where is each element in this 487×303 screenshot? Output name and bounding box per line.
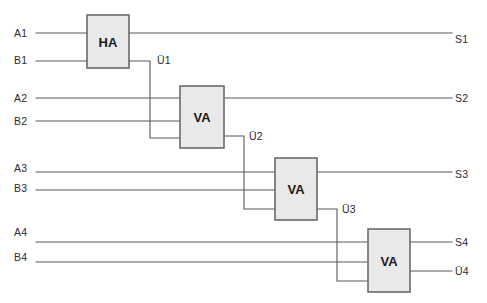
diagram-svg: HAVAVAVA xyxy=(0,0,487,303)
input-label-B2: B2 xyxy=(14,116,27,127)
input-label-B3: B3 xyxy=(14,183,27,194)
carry-label-U1: Ü1 xyxy=(157,55,171,66)
carry-label-U2: Ü2 xyxy=(249,131,263,142)
block-va2[interactable]: VA xyxy=(275,158,317,220)
output-label-S3: S3 xyxy=(455,169,468,180)
input-label-B4: B4 xyxy=(14,252,27,263)
input-label-A4: A4 xyxy=(14,227,27,238)
output-label-S2: S2 xyxy=(455,93,468,104)
block-label-va3: VA xyxy=(380,254,398,269)
adder-diagram-canvas: HAVAVAVA A1B1A2B2A3B3A4B4S1S2S3S4Ü4Ü1Ü2Ü… xyxy=(0,0,487,303)
input-label-A1: A1 xyxy=(14,28,27,39)
input-label-A3: A3 xyxy=(14,163,27,174)
output-label-S4: S4 xyxy=(455,237,468,248)
block-va1[interactable]: VA xyxy=(180,86,224,148)
output-label-S1: S1 xyxy=(455,34,468,45)
block-layer: HAVAVAVA xyxy=(87,15,410,292)
input-label-B1: B1 xyxy=(14,55,27,66)
block-ha1[interactable]: HA xyxy=(87,15,129,68)
block-label-ha1: HA xyxy=(99,35,118,50)
block-va3[interactable]: VA xyxy=(368,229,410,292)
block-label-va1: VA xyxy=(193,110,211,125)
wire-u3-carry xyxy=(317,209,368,281)
output-label-U4: Ü4 xyxy=(455,266,469,277)
carry-label-U3: Ü3 xyxy=(342,204,356,215)
input-label-A2: A2 xyxy=(14,93,27,104)
wire-u1-carry xyxy=(129,61,180,138)
block-label-va2: VA xyxy=(287,182,305,197)
